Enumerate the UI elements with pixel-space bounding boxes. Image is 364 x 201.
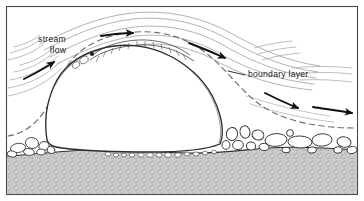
- stream-flow-boulder-diagram: stream flow boundary layer: [0, 0, 364, 201]
- stream-flow-label-line1: stream: [38, 34, 66, 44]
- stream-flow-label-line2: flow: [50, 45, 67, 55]
- sediment-bed: [7, 147, 357, 194]
- figure-container: stream flow boundary layer: [0, 0, 364, 201]
- label-boundary-layer: boundary layer: [248, 69, 308, 79]
- boundary-layer-label: boundary layer: [248, 69, 308, 79]
